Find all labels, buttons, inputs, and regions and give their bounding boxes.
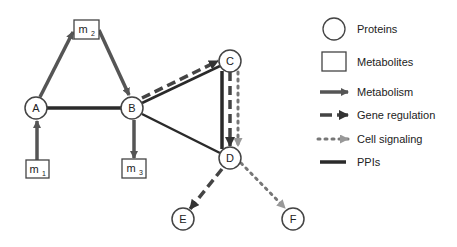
node-m1-label: m bbox=[29, 163, 38, 175]
legend-label-metabolism: Metabolism bbox=[357, 86, 413, 98]
node-m2-label: m bbox=[78, 23, 87, 35]
node-m3-subscript: 3 bbox=[139, 169, 143, 176]
metabolism-edges bbox=[37, 30, 134, 160]
edge-D-E-gene bbox=[190, 169, 222, 209]
cell-signaling-edges bbox=[238, 72, 285, 208]
node-E: E bbox=[172, 208, 194, 230]
node-B-label: B bbox=[128, 102, 135, 114]
node-C: C bbox=[219, 50, 241, 72]
legend-label-proteins: Proteins bbox=[357, 23, 398, 35]
legend-label-gene-regulation: Gene regulation bbox=[357, 109, 435, 121]
edge-A-m2-metabolism bbox=[40, 32, 73, 97]
legend-item-proteins: Proteins bbox=[323, 18, 398, 40]
edge-B-C-ppi bbox=[142, 66, 220, 103]
legend-item-metabolism: Metabolism bbox=[320, 86, 413, 98]
legend-label-cell-signaling: Cell signaling bbox=[357, 133, 422, 145]
node-E-label: E bbox=[179, 213, 186, 225]
node-m1: m 1 bbox=[26, 160, 49, 178]
legend-item-cell-signaling: Cell signaling bbox=[318, 133, 422, 145]
legend: Proteins Metabolites Metabolism Gene reg… bbox=[318, 18, 435, 168]
node-A: A bbox=[25, 97, 47, 119]
node-F-label: F bbox=[290, 213, 297, 225]
node-B: B bbox=[121, 97, 143, 119]
node-m3-label: m bbox=[126, 162, 135, 174]
legend-label-metabolites: Metabolites bbox=[357, 56, 414, 68]
network-diagram: A B C D E F m 1 m 2 m 3 Proteins bbox=[0, 0, 457, 247]
node-m3: m 3 bbox=[122, 159, 146, 178]
edge-D-F-signaling bbox=[241, 163, 285, 208]
edge-B-D-ppi bbox=[142, 114, 220, 153]
protein-circle-icon bbox=[323, 18, 345, 40]
metabolite-square-icon bbox=[322, 52, 346, 71]
node-m2-subscript: 2 bbox=[91, 30, 95, 37]
node-D: D bbox=[219, 147, 241, 169]
diagram-svg: A B C D E F m 1 m 2 m 3 Proteins bbox=[0, 0, 457, 247]
legend-item-gene-regulation: Gene regulation bbox=[320, 109, 435, 121]
node-D-label: D bbox=[226, 152, 234, 164]
node-A-label: A bbox=[32, 102, 40, 114]
edge-m2-B-metabolism bbox=[99, 30, 129, 95]
edge-B-C-gene bbox=[142, 61, 218, 98]
node-m1-subscript: 1 bbox=[42, 170, 46, 177]
node-F: F bbox=[282, 208, 304, 230]
legend-label-ppis: PPIs bbox=[357, 156, 381, 168]
legend-item-ppis: PPIs bbox=[320, 156, 381, 168]
node-C-label: C bbox=[226, 55, 234, 67]
node-m2: m 2 bbox=[74, 20, 99, 39]
legend-item-metabolites: Metabolites bbox=[322, 52, 414, 71]
